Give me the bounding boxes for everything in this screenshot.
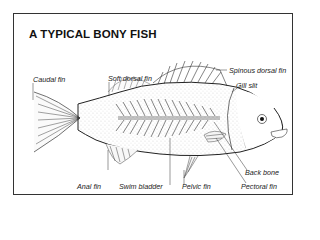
label-spinous-dorsal-fin: Spinous dorsal fin — [229, 66, 286, 75]
label-pectoral-fin: Pectoral fin — [241, 182, 277, 191]
caudal-fin — [34, 92, 80, 152]
label-pelvic-fin: Pelvic fin — [182, 182, 211, 191]
label-soft-dorsal-fin: Soft dorsal fin — [108, 74, 152, 83]
label-swim-bladder: Swim bladder — [119, 182, 163, 191]
label-back-bone: Back bone — [245, 168, 279, 177]
label-anal-fin: Anal fin — [77, 182, 101, 191]
label-gill-slit: Gill slit — [236, 81, 257, 90]
pelvic-fin — [184, 156, 198, 178]
label-caudal-fin: Caudal fin — [33, 75, 65, 84]
